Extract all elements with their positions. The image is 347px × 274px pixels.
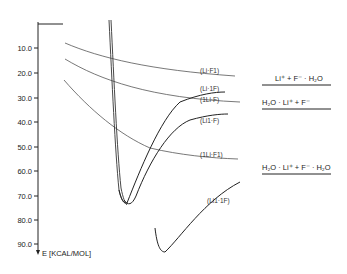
axis-arrow-icon [36,250,40,255]
curve-label: (Li1·1F) [207,197,230,205]
energy-diagram: 10.0 20.0 30.0 40.0 50.0 60.0 70.0 80.0 … [0,0,347,274]
axis-title: E [KCAL/MOL] [42,249,91,258]
tick-label: 40.0 [17,118,32,127]
covalent-curves [119,92,240,252]
tick-label: 70.0 [17,192,32,201]
tick-label: 60.0 [17,167,32,176]
level-label: Li⁺ + F⁻ · H₂O [275,74,323,83]
asymptote-levels: Li⁺ + F⁻ · H₂O H₂O · Li⁺ + F⁻ H₂O · Li⁺ … [262,74,331,174]
tick-label: 90.0 [17,240,32,249]
repulsive-walls [109,20,127,205]
level-label: H₂O · Li⁺ + F⁻ [262,98,310,107]
tick-label: 30.0 [17,94,32,103]
curve-label: (Li1·F) [200,117,219,125]
curve-labels: (Li·F1) (Li·1F) (1Li·F) (Li1·F) (1Li·F1)… [200,67,230,205]
curve-label: (1Li·F1) [200,151,223,159]
tick-label: 50.0 [17,143,32,152]
energy-axis [34,22,63,252]
curve-label: (Li·F1) [200,67,219,75]
tick-label: 10.0 [17,44,32,53]
level-label: H₂O · Li⁺ + F⁻ · H₂O [262,163,331,172]
tick-label: 80.0 [17,216,32,225]
curve-label: (1Li·F) [200,96,219,104]
curve-label: (Li·1F) [200,85,219,93]
tick-label: 20.0 [17,69,32,78]
axis-tick-labels: 10.0 20.0 30.0 40.0 50.0 60.0 70.0 80.0 … [17,44,32,249]
